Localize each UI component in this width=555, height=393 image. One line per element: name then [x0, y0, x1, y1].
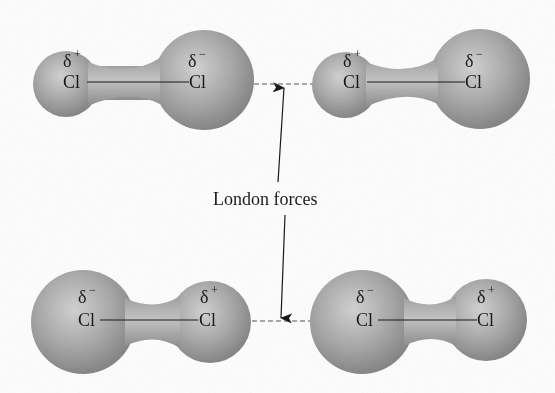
diagram-canvas: δ + Cl δ − Cl δ + Cl	[0, 0, 555, 393]
london-forces-diagram: δ + Cl δ − Cl δ + Cl	[0, 0, 555, 393]
paper-texture	[0, 0, 555, 393]
